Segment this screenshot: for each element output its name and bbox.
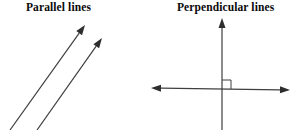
arrowhead-icon (151, 85, 161, 92)
textbook-figure-canvas: Parallel lines Perpendicular lines (0, 0, 297, 130)
arrowhead-icon (219, 18, 226, 28)
parallel-line-left (10, 33, 79, 130)
perpendicular-lines-figure (151, 18, 290, 130)
horizontal-line (161, 88, 280, 90)
arrowhead-icon (93, 38, 102, 48)
arrowhead-icon (76, 25, 85, 35)
lines-diagram (0, 0, 297, 130)
parallel-lines-figure (10, 25, 102, 130)
parallel-line-right (37, 46, 96, 130)
arrowhead-icon (280, 86, 290, 93)
right-angle-marker (222, 80, 231, 89)
